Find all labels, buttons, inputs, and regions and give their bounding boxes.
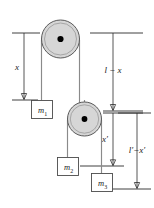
pulley-diagram-canvas: x l − x x′ l′−x′ (0, 0, 154, 208)
lower-pulley (68, 102, 102, 136)
dimension-l-prime-minus-x-prime-label: l′−x′ (129, 145, 147, 155)
upper-pulley (42, 20, 80, 58)
lower-pulley-hub-icon (82, 116, 88, 122)
dimension-x: x (12, 33, 40, 100)
physics-figure: x l − x x′ l′−x′ (0, 0, 154, 208)
mass-m3-subscript: 3 (104, 184, 107, 190)
dimension-l-prime-minus-x-prime: l′−x′ (112, 113, 151, 189)
dimension-l-minus-x: l − x (90, 33, 143, 111)
dimension-x-prime-label: x′ (101, 134, 109, 144)
mass-m2-subscript: 2 (70, 168, 73, 174)
mass-m3: m3 (92, 174, 113, 192)
mass-m2: m2 (58, 158, 79, 176)
mass-m1-subscript: 1 (44, 111, 47, 117)
dimension-l-minus-x-label: l − x (104, 65, 121, 75)
dimension-x-label: x (14, 62, 19, 72)
mass-m1: m1 (32, 101, 53, 119)
upper-pulley-hub-icon (57, 36, 63, 42)
